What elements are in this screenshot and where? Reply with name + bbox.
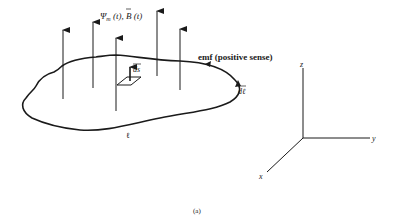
y-axis-label: y <box>371 134 376 143</box>
flux-label: Ψm (t), B (t) <box>100 11 142 22</box>
x-axis-label: x <box>258 172 263 181</box>
dl-label: dℓ <box>238 87 246 96</box>
ds-label: ds <box>133 65 140 74</box>
flux-arrows <box>63 11 180 111</box>
coordinate-axes <box>267 68 370 172</box>
closed-loop-path <box>23 55 240 130</box>
emf-label: emf (positive sense) <box>198 52 272 62</box>
path-label: ℓ <box>126 131 130 140</box>
z-axis-label: z <box>299 60 304 69</box>
figure-caption: (a) <box>193 207 201 215</box>
figure-canvas: ds Ψm (t), B (t) emf (positive sense) dℓ… <box>0 0 393 219</box>
